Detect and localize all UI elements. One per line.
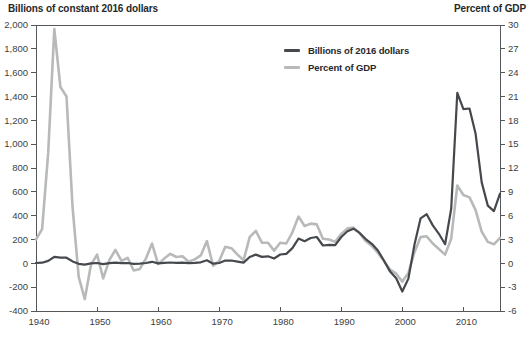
x-axis-tick-label: 1990	[334, 316, 355, 327]
chart-canvas: 2,0001,8001,6001,4001,2001,0008006004002…	[0, 0, 530, 339]
series-line-percent-of-gdp	[36, 29, 500, 299]
left-axis-tick-label: 200	[12, 234, 28, 245]
legend-swatch-icon	[284, 49, 300, 52]
left-axis-tick-label: 600	[12, 186, 28, 197]
left-axis-tick-label: 1,600	[4, 67, 28, 78]
left-axis-tick-label: 400	[12, 210, 28, 221]
right-axis-tick-label: 24	[508, 67, 519, 78]
left-axis-tick-label: -200	[9, 281, 28, 292]
right-axis-tick-label: 21	[508, 91, 519, 102]
left-axis-tick-label: 2,000	[4, 19, 28, 30]
legend-item: Percent of GDP	[284, 59, 409, 76]
legend-label: Percent of GDP	[308, 62, 376, 73]
x-axis-tick-label: 1940	[28, 316, 49, 327]
right-axis-tick-label: -3	[508, 281, 516, 292]
x-axis-tick-label: 1970	[212, 316, 233, 327]
deficit-chart-figure: Billions of constant 2016 dollars Percen…	[0, 0, 530, 339]
left-axis-tick-label: 1,800	[4, 43, 28, 54]
x-axis-tick-label: 1980	[273, 316, 294, 327]
right-axis-tick-label: 27	[508, 43, 519, 54]
left-axis-tick-label: 1,200	[4, 115, 28, 126]
left-axis-tick-label: 1,000	[4, 138, 28, 149]
right-axis-tick-label: 18	[508, 115, 519, 126]
right-axis-tick-label: 6	[508, 210, 513, 221]
chart-legend: Billions of 2016 dollarsPercent of GDP	[284, 42, 409, 76]
legend-label: Billions of 2016 dollars	[308, 45, 409, 56]
right-axis-tick-label: 9	[508, 186, 513, 197]
left-axis-tick-label: 800	[12, 162, 28, 173]
series-line-billions	[36, 93, 500, 292]
right-axis-tick-label: 12	[508, 162, 519, 173]
right-axis-tick-label: 3	[508, 234, 513, 245]
left-axis-tick-label: 1,400	[4, 91, 28, 102]
x-axis-tick-label: 1950	[89, 316, 110, 327]
left-axis-tick-label: 0	[23, 258, 28, 269]
x-axis-tick-label: 2010	[456, 316, 477, 327]
x-axis-tick-label: 2000	[395, 316, 416, 327]
left-axis-tick-label: -400	[9, 305, 28, 316]
right-axis-tick-label: 15	[508, 138, 519, 149]
right-axis-tick-label: -6	[508, 305, 516, 316]
right-axis-tick-label: 0	[508, 258, 513, 269]
right-axis-tick-label: 30	[508, 19, 519, 30]
x-axis-tick-label: 1960	[151, 316, 172, 327]
legend-item: Billions of 2016 dollars	[284, 42, 409, 59]
legend-swatch-icon	[284, 66, 300, 69]
